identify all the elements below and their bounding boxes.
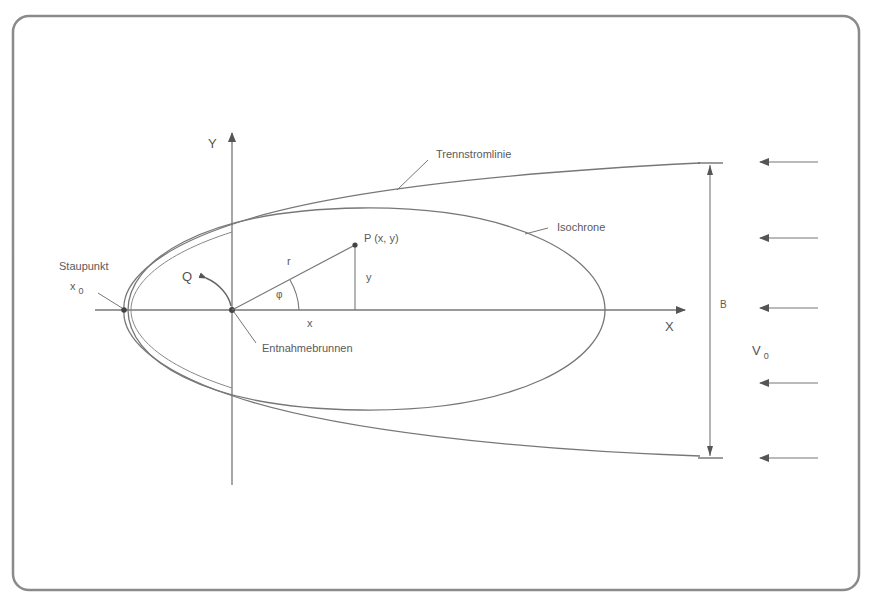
x0-main: x — [70, 280, 76, 292]
discharge-arrow — [206, 278, 231, 306]
separating-streamline-label: Trennstromlinie — [436, 149, 511, 160]
stagnation-point-label: Staupunkt — [59, 261, 109, 272]
flow-arrows — [760, 162, 818, 458]
y-coord-label: y — [366, 272, 372, 283]
velocity-label: V0 — [752, 344, 769, 357]
well-label: Entnahmebrunnen — [262, 343, 353, 354]
width-arrowhead-top — [707, 165, 713, 175]
isochrone-leader — [525, 228, 548, 234]
isochrone-label: Isochrone — [557, 222, 605, 233]
point-p-label: P (x, y) — [364, 233, 399, 244]
x0-label: x0 — [70, 281, 84, 292]
velocity-main: V — [752, 343, 761, 358]
discharge-label: Q — [182, 270, 192, 283]
velocity-sub: 0 — [764, 351, 769, 361]
width-label: B — [720, 300, 727, 310]
stagnation-leader — [98, 293, 122, 308]
point-p — [352, 242, 357, 247]
angle-label: φ — [276, 290, 282, 300]
y-axis-label: Y — [208, 137, 217, 150]
x0-sub: 0 — [79, 286, 84, 296]
width-arrowhead-bottom — [707, 446, 713, 456]
radius-label: r — [287, 256, 291, 267]
radius-line — [232, 245, 355, 310]
x-coord-label: x — [307, 318, 313, 329]
diagram-canvas — [0, 0, 874, 603]
stagnation-point — [121, 307, 127, 313]
well-leader — [234, 312, 256, 343]
x-axis-label: X — [665, 320, 674, 333]
angle-arc — [290, 280, 299, 310]
frame-border — [13, 16, 859, 590]
